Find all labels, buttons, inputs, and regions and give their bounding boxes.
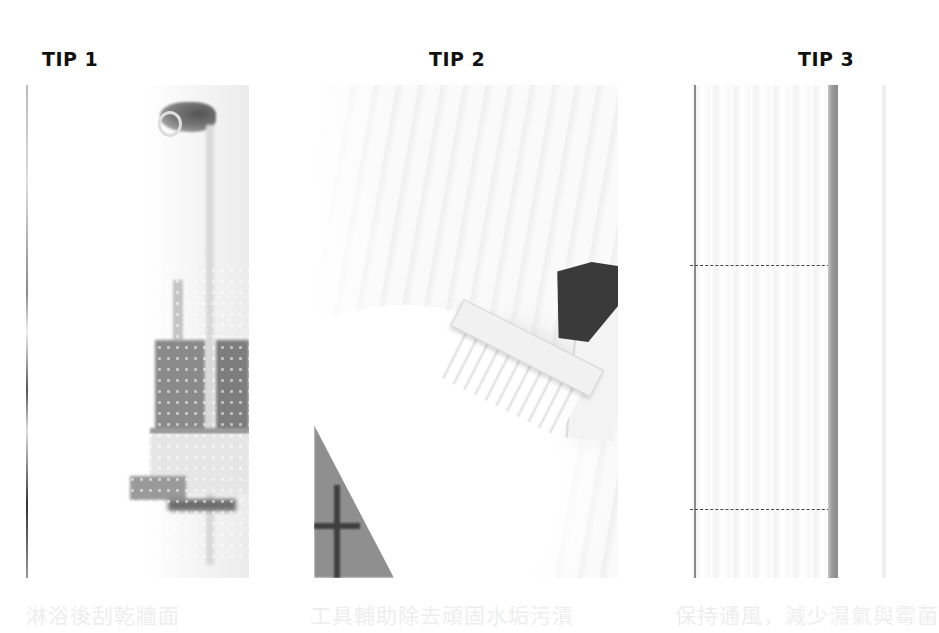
adjacent-wall — [838, 85, 900, 578]
tip-3-photo — [690, 85, 900, 578]
tip-2-caption: 工具輔助除去頑固水垢污漬 — [310, 599, 574, 629]
tip-1-title: TIP 1 — [42, 48, 98, 70]
tip-3-title: TIP 3 — [798, 48, 854, 70]
wall-corner-shadow — [828, 85, 838, 578]
tip-2-title: TIP 2 — [429, 48, 485, 70]
tip-1-caption: 淋浴後刮乾牆面 — [26, 599, 180, 629]
grout-line-lower — [690, 509, 840, 511]
grout-line-upper — [690, 265, 840, 267]
tip-1-photo — [18, 85, 249, 578]
wall-texture-stripe — [882, 85, 886, 578]
shower-head-ring — [158, 111, 182, 137]
wall-edge — [694, 85, 696, 578]
shower-glass-edge — [26, 85, 28, 578]
water-droplets — [128, 265, 249, 565]
grout-line-vertical — [334, 485, 340, 578]
tip-3-caption: 保持通風，減少濕氣與霉菌 — [675, 599, 939, 629]
tip-2-photo — [314, 85, 618, 578]
